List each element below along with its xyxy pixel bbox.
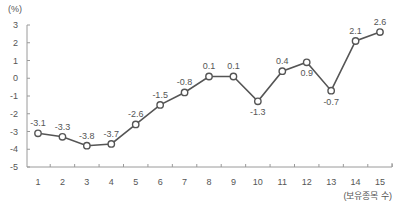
x-axis-title: (보유종목 수) <box>344 191 393 201</box>
x-tick-label: 10 <box>253 177 263 187</box>
data-label: 0.1 <box>203 61 216 71</box>
x-tick-label: 7 <box>182 177 187 187</box>
data-label: 2.6 <box>374 17 387 27</box>
data-point-marker <box>157 102 163 108</box>
data-point-marker <box>304 59 310 65</box>
x-tick-label: 9 <box>231 177 236 187</box>
data-label: -3.1 <box>30 118 46 128</box>
data-series: -3.1-3.3-3.8-3.7-2.6-1.5-0.80.10.1-1.30.… <box>30 17 386 149</box>
data-point-marker <box>181 89 187 95</box>
data-point-marker <box>35 130 41 136</box>
data-label: -3.3 <box>55 122 71 132</box>
x-tick-label: 6 <box>158 177 163 187</box>
data-point-marker <box>352 38 358 44</box>
y-tick-label: -1 <box>10 91 18 101</box>
data-label: -1.3 <box>250 107 266 117</box>
y-tick-label: 0 <box>13 73 18 83</box>
data-point-marker <box>255 98 261 104</box>
y-tick-label: -3 <box>10 127 18 137</box>
x-tick-label: 12 <box>302 177 312 187</box>
data-point-marker <box>279 68 285 74</box>
data-point-marker <box>230 73 236 79</box>
data-label: 0.1 <box>227 61 240 71</box>
y-unit-label: (%) <box>8 4 22 14</box>
data-point-marker <box>84 143 90 149</box>
data-point-marker <box>206 73 212 79</box>
data-label: 2.1 <box>349 26 362 36</box>
data-label: -0.7 <box>323 97 339 107</box>
data-point-marker <box>108 141 114 147</box>
x-tick-label: 4 <box>109 177 114 187</box>
x-tick-label: 11 <box>278 177 287 187</box>
x-tick-label: 15 <box>375 177 385 187</box>
data-label: 0.9 <box>300 68 313 78</box>
data-label: -3.8 <box>79 131 95 141</box>
data-point-marker <box>59 134 65 140</box>
data-label: -0.8 <box>177 77 193 87</box>
data-label: -1.5 <box>152 90 168 100</box>
x-tick-label: 3 <box>84 177 89 187</box>
y-axis: 3210-1-2-3-4-5 <box>10 20 30 172</box>
y-tick-label: 2 <box>13 38 18 48</box>
data-label: 0.4 <box>276 56 289 66</box>
data-label: -2.6 <box>128 109 144 119</box>
data-label: -3.7 <box>104 129 120 139</box>
x-tick-label: 5 <box>133 177 138 187</box>
data-point-marker <box>133 121 139 127</box>
data-point-marker <box>328 87 334 93</box>
y-tick-label: -4 <box>10 144 18 154</box>
x-tick-label: 1 <box>35 177 40 187</box>
x-tick-label: 2 <box>60 177 65 187</box>
x-tick-label: 14 <box>351 177 361 187</box>
data-point-marker <box>377 29 383 35</box>
x-tick-label: 8 <box>206 177 211 187</box>
x-tick-label: 13 <box>326 177 336 187</box>
x-axis: 123456789101112131415 <box>27 163 392 187</box>
y-tick-label: 3 <box>13 20 18 30</box>
line-chart: (%) 3210-1-2-3-4-5 123456789101112131415… <box>0 0 401 207</box>
y-tick-label: -5 <box>10 162 18 172</box>
y-tick-label: -2 <box>10 109 18 119</box>
y-tick-label: 1 <box>13 56 18 66</box>
